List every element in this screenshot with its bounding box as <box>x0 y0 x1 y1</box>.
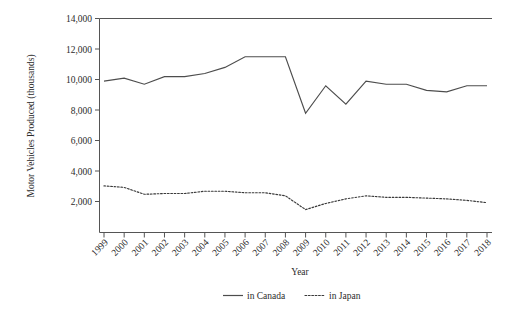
x-tick-marks <box>104 233 487 238</box>
y-tick-label: 12,000 <box>66 45 92 55</box>
x-tick-label: 2011 <box>332 237 352 257</box>
y-tick-label: 4,000 <box>71 167 93 177</box>
x-tick-label: 2008 <box>271 237 292 258</box>
y-axis-tick-labels: 14,000 12,000 10,000 8,000 6,000 4,000 2… <box>66 14 92 207</box>
x-tick-label: 2013 <box>372 237 393 258</box>
x-tick-label: 2014 <box>392 237 413 258</box>
x-tick-label: 2003 <box>170 237 191 258</box>
y-tick-marks <box>95 19 100 202</box>
x-tick-label: 2006 <box>231 237 252 258</box>
y-tick-label: 10,000 <box>66 75 92 85</box>
y-tick-label: 14,000 <box>66 14 92 24</box>
x-tick-label: 2004 <box>190 237 211 258</box>
x-tick-label: 2017 <box>452 237 473 258</box>
x-tick-label: 1999 <box>89 237 110 258</box>
x-tick-label: 2001 <box>130 237 151 258</box>
x-tick-label: 2009 <box>291 237 312 258</box>
x-tick-label: 2015 <box>412 237 433 258</box>
x-tick-label: 2002 <box>150 237 171 258</box>
y-tick-label: 2,000 <box>71 197 93 207</box>
x-axis-tick-labels: 1999200020012002200320042005200620072008… <box>89 237 493 258</box>
legend-label-in-canada: in Canada <box>247 291 286 301</box>
line-chart-svg: Motor Vehicles Produced (thousands) 14,0… <box>0 0 531 315</box>
x-tick-label: 2018 <box>472 237 493 258</box>
y-axis-title: Motor Vehicles Produced (thousands) <box>26 54 37 197</box>
series-line-in-canada <box>104 57 487 114</box>
x-tick-label: 2012 <box>351 237 372 258</box>
x-axis-title: Year <box>291 267 309 277</box>
y-tick-label: 8,000 <box>71 106 93 116</box>
x-tick-label: 2000 <box>110 237 131 258</box>
chart-figure: Motor Vehicles Produced (thousands) 14,0… <box>0 0 531 315</box>
legend: in Canada in Japan <box>223 291 361 301</box>
x-tick-label: 2010 <box>311 237 332 258</box>
y-tick-label: 6,000 <box>71 136 93 146</box>
x-tick-label: 2007 <box>251 237 272 258</box>
x-tick-label: 2005 <box>210 237 231 258</box>
series-line-in-japan <box>104 186 487 210</box>
legend-label-in-japan: in Japan <box>329 291 361 301</box>
x-tick-label: 2016 <box>432 237 453 258</box>
